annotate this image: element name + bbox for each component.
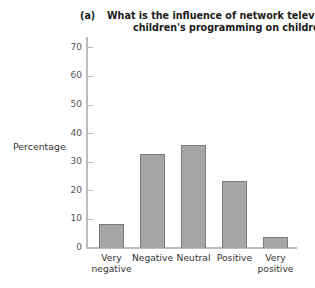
y-tick [88, 105, 93, 106]
y-tick-label: 0 [62, 242, 82, 252]
bar-neutral [181, 145, 206, 248]
y-tick-label: 20 [62, 185, 82, 195]
x-category-label-line: positive [251, 263, 301, 274]
y-axis-line [86, 37, 88, 249]
y-tick-label: 50 [62, 99, 82, 109]
y-tick-label: 70 [62, 42, 82, 52]
y-tick-label: 60 [62, 70, 82, 80]
bar-positive [222, 181, 247, 248]
y-tick-label: 40 [62, 128, 82, 138]
bar-very-positive [263, 237, 288, 248]
bar-negative [140, 154, 165, 248]
y-tick [88, 133, 93, 134]
y-tick [88, 47, 93, 48]
chart-title-line1: What is the influence of network televis… [107, 10, 315, 22]
x-category-label-line: negative [87, 263, 137, 274]
panel-label: (a) [80, 10, 95, 22]
y-tick [88, 248, 93, 249]
y-tick [88, 162, 93, 163]
y-tick-label: 10 [62, 213, 82, 223]
y-tick-label: 30 [62, 156, 82, 166]
bar-very-negative [99, 224, 124, 248]
x-category-label: Verypositive [251, 252, 301, 274]
y-tick [88, 76, 93, 77]
chart-title-line2: children's programming on children? [133, 22, 315, 34]
y-tick [88, 190, 93, 191]
x-category-label-line: Very [251, 252, 301, 263]
y-tick [88, 219, 93, 220]
y-axis-label: Percentage [13, 141, 66, 152]
